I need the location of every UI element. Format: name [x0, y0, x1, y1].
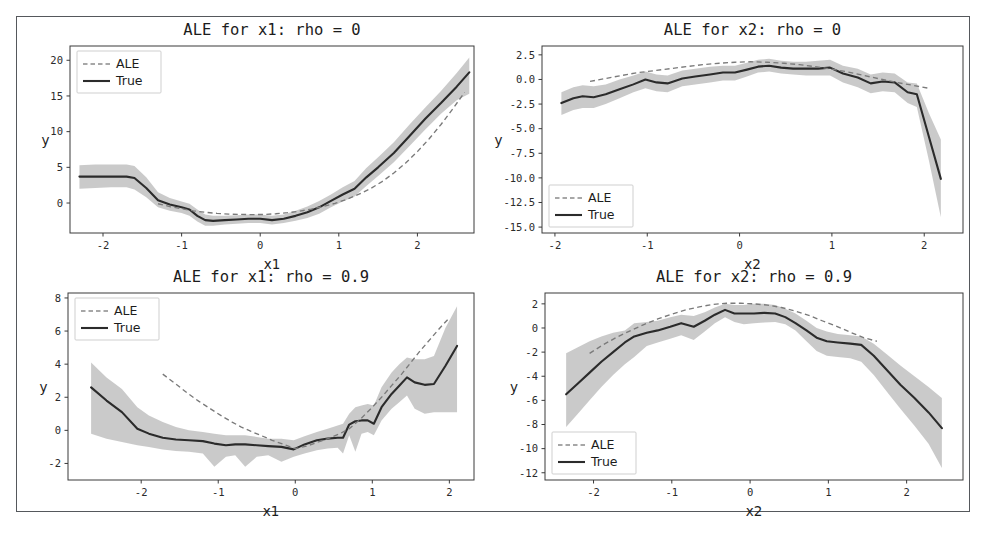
figure-frame: ALE for x1: rho = 0-2-101205101520x1yALE…: [16, 16, 970, 512]
y-tick-label: 8: [55, 292, 61, 304]
legend: ALETrue: [75, 298, 159, 340]
legend-label-ale: ALE: [588, 190, 612, 205]
y-tick-label: -6: [525, 394, 538, 406]
y-tick-label: 2.5: [516, 49, 535, 61]
x-tick-label: 2: [446, 486, 452, 498]
y-axis-label: y: [510, 379, 518, 395]
chart-title: ALE for x2: rho = 0.9: [656, 268, 852, 286]
x-tick-label: 1: [825, 486, 831, 498]
x-tick-label: 2: [414, 239, 420, 251]
chart-panel: ALE for x1: rho = 0.9-2-101286420-2x1yAL…: [10, 263, 484, 524]
y-tick-label: 10: [50, 125, 63, 137]
y-tick-label: -4: [525, 370, 538, 382]
figure-root: ALE for x1: rho = 0-2-101205101520x1yALE…: [0, 0, 994, 538]
chart-panel: ALE for x2: rho = 0-2-10122.50.0-2.5-5.0…: [484, 16, 973, 277]
legend-label-true: True: [587, 207, 615, 222]
chart-title: ALE for x1: rho = 0.9: [173, 268, 369, 286]
legend-label-ale: ALE: [591, 437, 615, 452]
x-tick-label: -1: [641, 239, 654, 251]
legend-label-ale: ALE: [116, 56, 140, 71]
x-axis-label: x1: [263, 503, 280, 519]
legend: ALETrue: [549, 185, 633, 227]
y-tick-label: -15.0: [503, 221, 535, 233]
legend-label-ale: ALE: [114, 303, 138, 318]
y-tick-label: 0: [57, 197, 63, 209]
x-tick-label: 0: [736, 239, 742, 251]
y-tick-label: 5: [57, 161, 63, 173]
y-tick-label: 2: [532, 298, 538, 310]
chart-title: ALE for x1: rho = 0: [183, 21, 360, 39]
y-axis-label: y: [39, 379, 47, 395]
x-axis-label: x2: [746, 503, 763, 519]
y-tick-label: -2: [48, 457, 61, 469]
x-tick-label: -1: [665, 486, 678, 498]
x-tick-label: 2: [921, 239, 927, 251]
x-tick-label: 0: [257, 239, 263, 251]
y-tick-label: 4: [55, 358, 61, 370]
chart-title: ALE for x2: rho = 0: [664, 21, 841, 39]
chart-panel: ALE for x1: rho = 0-2-101205101520x1yALE…: [12, 16, 484, 277]
y-tick-label: -2.5: [510, 98, 535, 110]
x-tick-label: 1: [369, 486, 375, 498]
y-tick-label: -12: [519, 467, 538, 479]
y-tick-label: 20: [50, 54, 63, 66]
legend: ALETrue: [77, 51, 161, 93]
y-tick-label: 2: [55, 391, 61, 403]
y-tick-label: -8: [525, 418, 538, 430]
y-tick-label: 0: [532, 322, 538, 334]
x-tick-label: 1: [829, 239, 835, 251]
y-tick-label: 0: [55, 424, 61, 436]
legend-label-true: True: [115, 73, 143, 88]
legend: ALETrue: [552, 432, 636, 474]
x-tick-label: -1: [212, 486, 225, 498]
legend-label-true: True: [590, 454, 618, 469]
y-tick-label: 6: [55, 325, 61, 337]
x-tick-label: -2: [135, 486, 148, 498]
x-tick-label: -2: [549, 239, 562, 251]
y-tick-label: 0.0: [516, 73, 535, 85]
y-tick-label: -7.5: [510, 147, 535, 159]
x-tick-label: -2: [587, 486, 600, 498]
x-tick-label: 2: [903, 486, 909, 498]
y-tick-label: -10.0: [503, 172, 535, 184]
y-axis-label: y: [41, 132, 49, 148]
y-tick-label: -2: [525, 346, 538, 358]
x-tick-label: 0: [292, 486, 298, 498]
y-tick-label: 15: [50, 90, 63, 102]
legend-label-true: True: [113, 320, 141, 335]
y-tick-label: -5.0: [510, 122, 535, 134]
y-tick-label: -12.5: [503, 196, 535, 208]
x-tick-label: -2: [97, 239, 110, 251]
x-tick-label: -1: [175, 239, 188, 251]
y-tick-label: -10: [519, 442, 538, 454]
x-tick-label: 0: [747, 486, 753, 498]
x-tick-label: 1: [336, 239, 342, 251]
chart-panel: ALE for x2: rho = 0.9-2-101220-2-4-6-8-1…: [487, 263, 973, 524]
y-axis-label: y: [495, 132, 503, 148]
